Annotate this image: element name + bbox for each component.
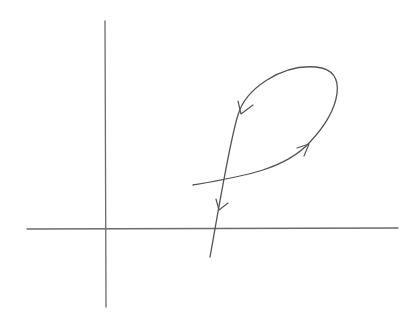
diagram-canvas bbox=[0, 0, 417, 324]
diagram-svg bbox=[0, 0, 417, 324]
background bbox=[0, 0, 417, 324]
